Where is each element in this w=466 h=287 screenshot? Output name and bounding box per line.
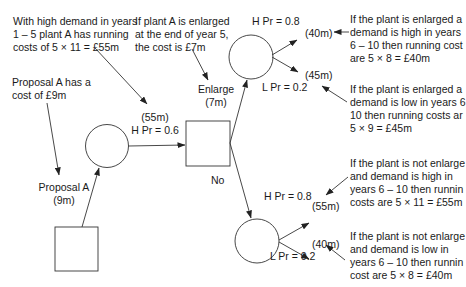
- no-low-probability: L Pr = 0.2: [270, 250, 315, 263]
- enlarge-high-value: (40m): [305, 27, 332, 40]
- note-not-enlarged-low-demand: If the plant is not enlarge and demand i…: [350, 230, 465, 282]
- branch-no-enlarge: [230, 143, 251, 218]
- decision-tree-diagram: With high demand in years 1 – 5 plant A …: [0, 0, 466, 287]
- chance-node-enlarge: [229, 35, 273, 79]
- no-label: No: [211, 174, 224, 187]
- enlarge-label: Enlarge (7m): [192, 83, 240, 109]
- no-low-value: (40m): [312, 238, 339, 251]
- decision-node-2: [186, 121, 230, 166]
- branch-enlarge-low: [272, 57, 298, 72]
- note-enlarged-low-demand: If the plant is enlarged a demand is low…: [350, 83, 466, 135]
- enlarge-high-probability: H Pr = 0.8: [252, 15, 300, 28]
- enlarge-low-value: (45m): [305, 69, 332, 82]
- branch-enlarge-high: [272, 40, 297, 55]
- note-enlarged-high-demand: If the plant is enlarged a demand is hig…: [350, 13, 463, 65]
- note-not-enlarged-high-demand: If the plant is not enlarge and demand i…: [350, 157, 465, 209]
- pointer-high-demand-note: [95, 48, 147, 104]
- pointer-proposal-cost-note: [47, 103, 59, 175]
- no-high-value: (55m): [312, 200, 339, 213]
- branch-chance1-to-decision2: [129, 145, 186, 146]
- high-demand-note: With high demand in years 1 – 5 plant A …: [13, 15, 137, 54]
- pointer-note-enlarged-low: [322, 86, 347, 102]
- enlarge-low-probability: L Pr = 0.2: [262, 81, 307, 94]
- proposal-cost-note: Proposal A has a cost of £9m: [12, 76, 91, 102]
- start-decision-node: [55, 227, 98, 271]
- proposal-a-label: Proposal A (9m): [35, 181, 93, 207]
- branch-no-high: [279, 223, 309, 240]
- branch1-probability: H Pr = 0.6: [120, 124, 190, 137]
- no-high-probability: H Pr = 0.8: [264, 190, 312, 203]
- pointer-note-not-enlarged-high: [326, 177, 348, 195]
- branch1-value: (55m): [120, 111, 190, 124]
- enlarge-cost-note: If plant A is enlarged at the end of yea…: [135, 15, 230, 54]
